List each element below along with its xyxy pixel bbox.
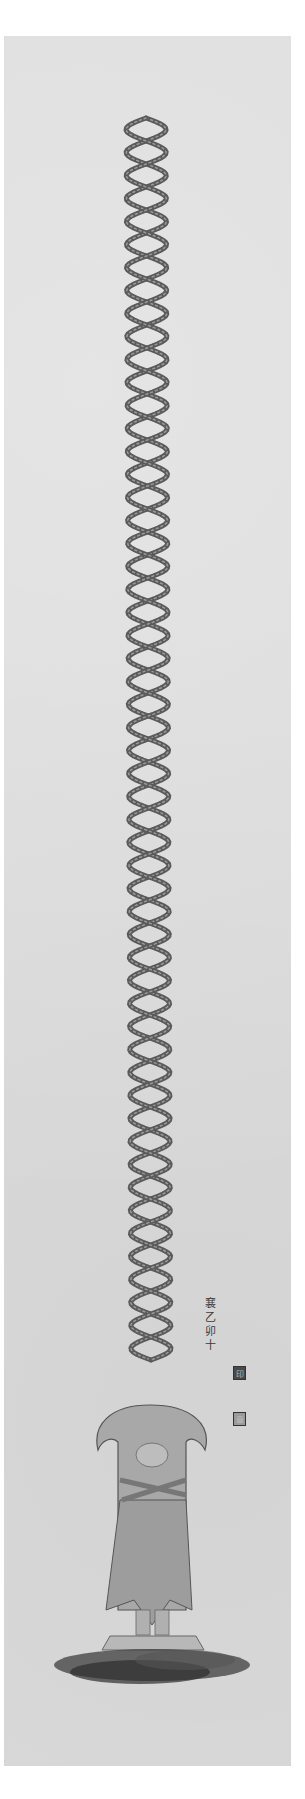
seal-stamp-2: 章 bbox=[233, 1412, 246, 1426]
inscription-char: 卯 bbox=[205, 1325, 216, 1339]
inscription: 㐮 乙 卯 十 bbox=[203, 1297, 217, 1353]
inscription-char: 十 bbox=[205, 1339, 216, 1353]
inscription-char: 乙 bbox=[205, 1311, 216, 1325]
double-helix-painting bbox=[0, 0, 305, 1799]
robed-figure bbox=[97, 1405, 207, 1650]
ink-cloud bbox=[54, 1649, 250, 1684]
inscription-char: 㐮 bbox=[205, 1297, 216, 1311]
seal-stamp-1: 印 bbox=[233, 1366, 246, 1380]
